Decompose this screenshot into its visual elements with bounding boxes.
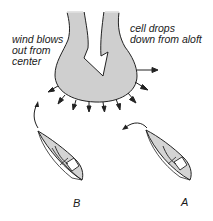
boat-a-course-arrow bbox=[122, 123, 147, 130]
boat-a-label: A bbox=[181, 197, 188, 208]
wind-cell-diagram: wind blows out from center cell drops do… bbox=[0, 0, 213, 221]
cell-label: cell drops down from aloft bbox=[130, 23, 202, 45]
cell-label-line-2: down from aloft bbox=[130, 34, 202, 45]
boat-b-course-arrow bbox=[34, 101, 39, 128]
wind-label-line-3: center bbox=[12, 56, 63, 67]
wind-label: wind blows out from center bbox=[12, 34, 63, 67]
boat-b-label: B bbox=[73, 198, 80, 209]
boat-a bbox=[146, 130, 191, 180]
boat-b bbox=[38, 131, 83, 180]
